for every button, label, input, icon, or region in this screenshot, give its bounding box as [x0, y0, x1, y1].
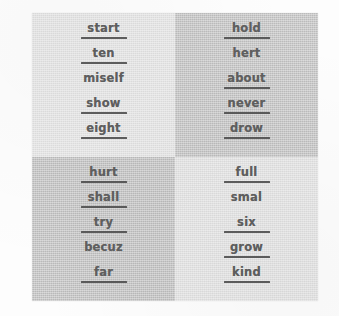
- word-label: hurt: [89, 166, 117, 179]
- word-underline: [81, 206, 127, 208]
- word-row[interactable]: try: [32, 216, 175, 241]
- word-underline: [224, 231, 270, 233]
- word-underline: [224, 137, 270, 139]
- word-underline: [81, 37, 127, 39]
- word-underline: [224, 112, 270, 114]
- word-row[interactable]: eight: [32, 122, 175, 147]
- worksheet-page: start ten miself show eight: [0, 0, 339, 316]
- word-row[interactable]: ten: [32, 47, 175, 72]
- word-underline: [224, 256, 270, 258]
- word-underline: [224, 181, 270, 183]
- word-underline: [81, 181, 127, 183]
- word-label: never: [228, 97, 266, 110]
- word-underline: [224, 37, 270, 39]
- word-label: eight: [86, 122, 121, 135]
- word-row[interactable]: kind: [175, 266, 318, 291]
- word-row[interactable]: hold: [175, 22, 318, 47]
- word-row[interactable]: smal: [175, 191, 318, 216]
- word-label: grow: [230, 241, 263, 254]
- word-underline: [81, 137, 127, 139]
- word-row[interactable]: becuz: [32, 241, 175, 266]
- word-row[interactable]: drow: [175, 122, 318, 147]
- word-label: far: [94, 266, 113, 279]
- word-label: becuz: [84, 241, 123, 254]
- word-label: show: [86, 97, 120, 110]
- word-underline: [81, 112, 127, 114]
- word-label: hert: [233, 47, 261, 60]
- word-label: full: [236, 166, 258, 179]
- word-list-top-right: hold hert about never drow: [175, 13, 318, 157]
- word-row[interactable]: about: [175, 72, 318, 97]
- word-row[interactable]: far: [32, 266, 175, 291]
- word-underline: [224, 281, 270, 283]
- word-label: miself: [83, 72, 124, 85]
- word-row[interactable]: six: [175, 216, 318, 241]
- word-underline: [81, 62, 127, 64]
- quadrant-bottom-left: hurt shall try becuz far: [32, 157, 175, 301]
- quadrant-top-left: start ten miself show eight: [32, 13, 175, 157]
- word-row[interactable]: shall: [32, 191, 175, 216]
- word-underline: [224, 87, 270, 89]
- word-row[interactable]: full: [175, 166, 318, 191]
- word-label: kind: [232, 266, 261, 279]
- word-underline: [81, 281, 127, 283]
- word-list-bottom-left: hurt shall try becuz far: [32, 157, 175, 301]
- quadrant-top-right: hold hert about never drow: [175, 13, 318, 157]
- word-row[interactable]: never: [175, 97, 318, 122]
- word-row[interactable]: start: [32, 22, 175, 47]
- word-label: shall: [88, 191, 120, 204]
- word-row[interactable]: show: [32, 97, 175, 122]
- word-row[interactable]: hert: [175, 47, 318, 72]
- word-label: hold: [232, 22, 261, 35]
- word-label: drow: [230, 122, 263, 135]
- word-row[interactable]: grow: [175, 241, 318, 266]
- word-label: six: [237, 216, 256, 229]
- word-list-bottom-right: full smal six grow kind: [175, 157, 318, 301]
- word-label: about: [227, 72, 266, 85]
- word-label: start: [87, 22, 119, 35]
- word-list-grid: start ten miself show eight: [32, 13, 318, 301]
- word-label: try: [94, 216, 113, 229]
- word-list-top-left: start ten miself show eight: [32, 13, 175, 157]
- word-row[interactable]: hurt: [32, 166, 175, 191]
- word-label: smal: [231, 191, 262, 204]
- word-row[interactable]: miself: [32, 72, 175, 97]
- quadrant-bottom-right: full smal six grow kind: [175, 157, 318, 301]
- word-label: ten: [92, 47, 114, 60]
- word-underline: [81, 231, 127, 233]
